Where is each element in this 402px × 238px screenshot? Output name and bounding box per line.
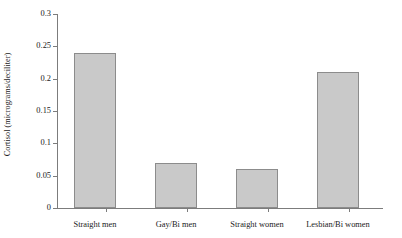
y-tick-label: 0.1 [41, 137, 51, 148]
y-tick-group: 0.3 [57, 14, 58, 15]
x-axis-label-straight-men: Straight men [73, 220, 116, 229]
y-tick-mark [53, 176, 58, 177]
x-axis-label-lesbian-bi-women: Lesbian/Bi women [306, 220, 370, 229]
y-tick-group: 0.15 [57, 111, 58, 112]
y-tick-label: 0.3 [41, 8, 51, 19]
y-tick-mark [53, 208, 58, 209]
y-tick-label: 0.05 [36, 170, 51, 181]
y-tick-label: 0.2 [41, 73, 51, 84]
x-tick-mark [349, 208, 350, 212]
bar-straight-men [74, 53, 116, 208]
y-tick-group: 0.2 [57, 79, 58, 80]
bar-lesbian-bi-women [317, 72, 359, 208]
y-axis-title: Cortisol (micrograms/deciliter) [0, 0, 16, 208]
y-tick-mark [53, 111, 58, 112]
x-tick-mark [106, 208, 107, 212]
x-tick-mark [268, 208, 269, 212]
y-tick-group: 0.1 [57, 143, 58, 144]
x-axis-label-straight-women: Straight women [230, 220, 283, 229]
y-tick-label: 0.25 [36, 40, 51, 51]
x-axis-label-gay-bi-men: Gay/Bi men [156, 220, 197, 229]
chart-figure: Cortisol (micrograms/deciliter) 0 0.05 0… [0, 0, 402, 238]
y-tick-group: 0.05 [57, 176, 58, 177]
plot-area: 0 0.05 0.1 0.15 0.2 0.25 0.3 [57, 14, 383, 208]
y-tick-mark [53, 46, 58, 47]
y-tick-mark [53, 143, 58, 144]
bar-gay-bi-men [155, 163, 197, 208]
y-tick-group: 0 [57, 208, 58, 209]
y-tick-mark [53, 14, 58, 15]
bar-straight-women [236, 169, 278, 208]
y-axis-title-text: Cortisol (micrograms/deciliter) [4, 52, 13, 156]
y-tick-label: 0 [47, 202, 51, 213]
y-tick-group: 0.25 [57, 46, 58, 47]
y-tick-label: 0.15 [36, 105, 51, 116]
y-tick-mark [53, 79, 58, 80]
x-tick-mark [187, 208, 188, 212]
